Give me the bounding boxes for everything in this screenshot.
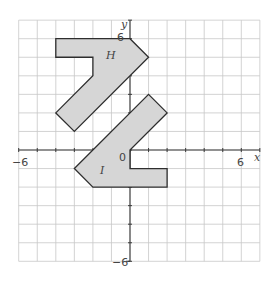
x-max-tick-label: 6 <box>237 156 244 169</box>
x-min-tick-label: −6 <box>12 156 28 169</box>
coordinate-grid: x y −6 6 6 −6 0 H I <box>0 0 272 281</box>
origin-label: 0 <box>119 151 126 164</box>
y-max-tick-label: 6 <box>117 31 124 44</box>
x-axis-label: x <box>254 151 261 164</box>
shape-h-label: H <box>105 49 116 62</box>
shape-i-label: I <box>99 164 105 177</box>
y-min-tick-label: −6 <box>112 256 128 269</box>
y-axis-label: y <box>120 18 128 31</box>
